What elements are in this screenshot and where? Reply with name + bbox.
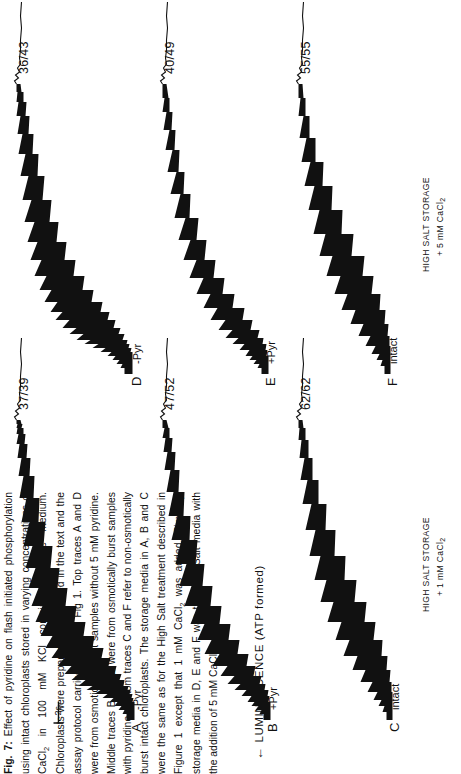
caption-subscript-3: 2: [212, 650, 221, 654]
trace-f-name: F: [384, 378, 399, 386]
caption-segment-2: in 100 mM KCl containing storage medium.…: [36, 492, 183, 774]
figure-caption: Fig. 7: Effect of pyridine on flash init…: [0, 492, 461, 774]
panel-high-salt-5mm: 36/43 D -Pyr 40/49 E +Pyr 55/55 F intact…: [0, 52, 461, 382]
panel-right-title-subscript: 2: [439, 198, 446, 202]
panel-right-title-line2-text: + 5 mM CaCl: [434, 202, 444, 256]
trace-b-ratio: 47/52: [162, 377, 176, 410]
trace-f-curve: [296, 84, 390, 374]
trace-d-ratio: 36/43: [16, 41, 30, 74]
trace-d-curve: [14, 84, 132, 374]
trace-d-name: D: [128, 377, 143, 386]
caption-subscript-1: 2: [41, 747, 50, 751]
trace-e-curve: [160, 84, 268, 374]
caption-subscript-2: 2: [177, 603, 186, 607]
trace-d-condition: -Pyr: [130, 344, 142, 364]
trace-e-ratio: 40/49: [162, 41, 176, 74]
figure-page: ← LUMINESCENCE (ATP formed) 2s 37/39 A -…: [0, 0, 461, 774]
caption-segment-4: .: [207, 647, 218, 650]
trace-f-condition: intact: [386, 338, 398, 364]
trace-a-ratio: 37/39: [16, 377, 30, 410]
trace-f: [296, 84, 390, 374]
trace-e: [160, 84, 268, 374]
panel-right-title-line2: + 5 mM CaCl2: [434, 198, 446, 256]
trace-f-ratio: 55/55: [298, 41, 312, 74]
trace-c-ratio: 62/62: [298, 377, 312, 410]
trace-e-name: E: [262, 377, 277, 386]
panel-right-title-line1: HIGH SALT STORAGE: [420, 177, 430, 272]
figure-number: Fig. 7:: [2, 741, 13, 774]
trace-e-condition: +Pyr: [264, 341, 276, 364]
figure-caption-text: Fig. 7: Effect of pyridine on flash init…: [0, 492, 224, 774]
trace-d: [14, 84, 132, 374]
